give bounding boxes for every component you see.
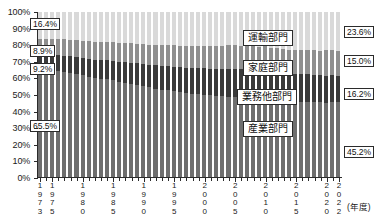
x-axis-tick-label: 2022 bbox=[334, 182, 344, 216]
x-axis-tick-label: 2000 bbox=[200, 182, 210, 216]
x-axis-tick-label: 1985 bbox=[108, 182, 118, 216]
x-axis-tick bbox=[199, 178, 200, 181]
x-axis-tick bbox=[333, 178, 334, 181]
x-axis-tick bbox=[125, 178, 126, 181]
bar-segment bbox=[336, 76, 342, 103]
y-axis-tick-label: 30% bbox=[13, 123, 30, 133]
x-axis-tick bbox=[315, 178, 316, 181]
legend-item-industrial: 産業部門 bbox=[243, 121, 293, 137]
y-axis-tick-label: 10% bbox=[13, 156, 30, 166]
x-axis-tick bbox=[247, 178, 248, 181]
x-axis-tick bbox=[71, 178, 72, 181]
x-axis-tick-label: 2005 bbox=[230, 182, 240, 216]
x-axis-tick-label: 1975 bbox=[47, 182, 57, 216]
x-axis-tick bbox=[278, 178, 279, 181]
bar-segment bbox=[336, 102, 342, 177]
y-axis-tick bbox=[34, 78, 38, 79]
x-axis-tick bbox=[211, 178, 212, 181]
x-axis-tick bbox=[321, 178, 322, 181]
x-axis-tick-label: 1980 bbox=[78, 182, 88, 216]
callout-industrial-first: 65.5% bbox=[30, 120, 60, 132]
x-axis-labels: 1973197519801985199019952000200520102015… bbox=[37, 182, 342, 219]
y-axis-tick-label: 80% bbox=[13, 40, 30, 50]
stacked-bar-chart: 0%10%20%30%40%50%60%70%80%90%100% 197319… bbox=[0, 0, 384, 219]
x-axis-tick bbox=[272, 178, 273, 181]
y-axis-tick bbox=[34, 145, 38, 146]
x-axis-tick bbox=[162, 178, 163, 181]
y-axis: 0%10%20%30%40%50%60%70%80%90%100% bbox=[0, 12, 34, 178]
y-axis-tick bbox=[34, 112, 38, 113]
y-axis-tick bbox=[34, 161, 38, 162]
x-axis-tick bbox=[132, 178, 133, 181]
legend-item-business: 業務他部門 bbox=[237, 89, 297, 105]
y-axis-tick-label: 40% bbox=[13, 107, 30, 117]
x-axis-tick bbox=[168, 178, 169, 181]
callout-industrial-last: 45.2% bbox=[344, 146, 374, 158]
y-axis-tick bbox=[34, 95, 38, 96]
callout-household-last: 15.0% bbox=[344, 55, 374, 67]
x-axis-tick bbox=[119, 178, 120, 181]
x-axis-tick-label: 1990 bbox=[139, 182, 149, 216]
legend-item-household: 家庭部門 bbox=[243, 60, 293, 76]
y-axis-tick-label: 70% bbox=[13, 57, 30, 67]
x-axis-tick bbox=[150, 178, 151, 181]
y-axis-tick bbox=[34, 128, 38, 129]
x-axis-tick bbox=[308, 178, 309, 181]
x-axis-tick bbox=[193, 178, 194, 181]
legend-item-transport: 運輸部門 bbox=[243, 30, 293, 46]
x-axis-tick bbox=[223, 178, 224, 181]
x-axis-tick bbox=[302, 178, 303, 181]
bar-segment bbox=[336, 12, 342, 51]
x-axis-tick bbox=[77, 178, 78, 181]
x-axis-tick bbox=[180, 178, 181, 181]
x-axis-tick bbox=[229, 178, 230, 181]
x-axis-tick bbox=[64, 178, 65, 181]
x-axis-tick bbox=[241, 178, 242, 181]
y-axis-tick bbox=[34, 12, 38, 13]
x-axis-tick bbox=[284, 178, 285, 181]
y-axis-tick-label: 60% bbox=[13, 73, 30, 83]
y-axis-tick-label: 90% bbox=[13, 24, 30, 34]
x-axis-tick bbox=[89, 178, 90, 181]
x-axis-tick bbox=[95, 178, 96, 181]
x-axis-tick bbox=[138, 178, 139, 181]
callout-business-last: 16.2% bbox=[344, 88, 374, 100]
x-axis-tick bbox=[46, 178, 47, 181]
y-axis-tick-label: 100% bbox=[8, 7, 30, 17]
x-axis-tick bbox=[290, 178, 291, 181]
x-axis-tick-label: 2015 bbox=[291, 182, 301, 216]
y-axis-tick-label: 50% bbox=[13, 90, 30, 100]
bar bbox=[336, 12, 342, 177]
y-axis-tick bbox=[34, 62, 38, 63]
y-axis-tick-label: 20% bbox=[13, 140, 30, 150]
y-axis-tick bbox=[34, 29, 38, 30]
x-axis-tick-label: 2010 bbox=[261, 182, 271, 216]
x-axis-tick bbox=[217, 178, 218, 181]
x-axis-tick bbox=[101, 178, 102, 181]
y-axis-tick bbox=[34, 45, 38, 46]
callout-business-first: 9.2% bbox=[30, 63, 55, 75]
x-axis-unit-label: (年度) bbox=[347, 200, 371, 212]
callout-household-first: 8.9% bbox=[30, 45, 55, 57]
bar-segment bbox=[336, 51, 342, 76]
x-axis-tick-label: 2020 bbox=[322, 182, 332, 216]
x-axis-tick bbox=[107, 178, 108, 181]
callout-transport-last: 23.6% bbox=[344, 26, 374, 38]
x-axis-tick bbox=[254, 178, 255, 181]
x-axis-tick-label: 1973 bbox=[35, 182, 45, 216]
y-axis-tick-label: 0% bbox=[17, 173, 30, 183]
x-axis-tick bbox=[260, 178, 261, 181]
x-axis-tick bbox=[58, 178, 59, 181]
y-axis-tick bbox=[34, 178, 38, 179]
x-axis-tick-label: 1995 bbox=[169, 182, 179, 216]
x-axis-tick bbox=[156, 178, 157, 181]
x-axis-tick bbox=[186, 178, 187, 181]
